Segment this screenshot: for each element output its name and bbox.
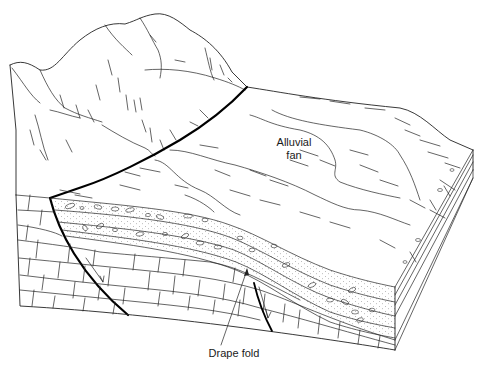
block-end-face <box>395 150 473 350</box>
geologic-block-diagram <box>0 0 498 369</box>
label-drape-fold: Drape fold <box>196 347 272 360</box>
label-alluvial-fan-line2: fan <box>270 149 318 162</box>
sediment-layers <box>50 198 395 338</box>
label-alluvial-fan: Alluvial fan <box>270 136 318 162</box>
main-fault-slip-arrow <box>86 258 104 282</box>
label-alluvial-fan-line1: Alluvial <box>270 136 318 149</box>
main-fault-surface-trace <box>50 87 247 198</box>
